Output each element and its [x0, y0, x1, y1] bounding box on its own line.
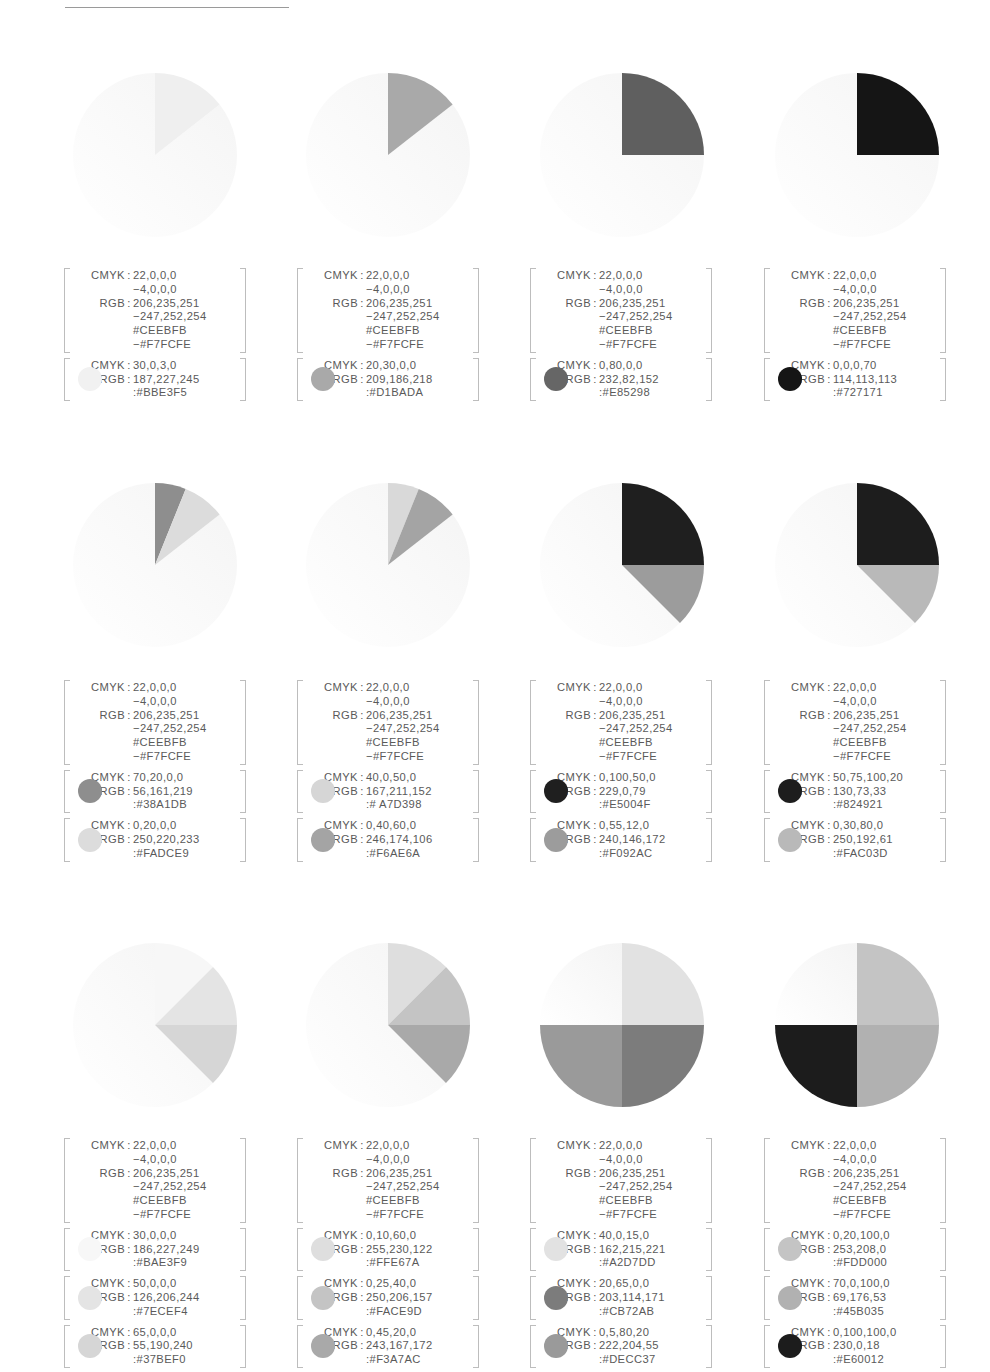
- separator: [125, 736, 133, 750]
- swatch-hex-value: :#E5004F: [599, 798, 651, 812]
- swatch-hex-value: :#FDD000: [833, 1256, 887, 1270]
- swatch-spec: CMYK:0,30,80,0RGB:250,192,61:#FAC03D: [764, 818, 946, 861]
- hex-end-label: [298, 338, 358, 352]
- rgb-end-value: −247,252,254: [133, 310, 207, 324]
- rgb-row: RGB:206,235,251: [298, 709, 478, 723]
- separator: [591, 310, 599, 324]
- separator: :: [358, 681, 366, 695]
- swatch-spec: CMYK:0,20,0,0RGB:250,220,233:#FADCE9: [64, 818, 246, 861]
- top-rule: [65, 7, 289, 8]
- separator: [125, 1353, 133, 1367]
- base-gradient-spec: CMYK:22,0,0,0−4,0,0,0RGB:206,235,251−247…: [297, 1138, 479, 1223]
- hex-end-label: [765, 1208, 825, 1222]
- hex-end-label: [765, 338, 825, 352]
- separator: [358, 750, 366, 764]
- rgb-value: 206,235,251: [833, 297, 900, 311]
- separator: :: [358, 373, 366, 387]
- separator: [125, 1305, 133, 1319]
- pie-chart: [286, 463, 490, 667]
- hex-end-label: [298, 1208, 358, 1222]
- swatch-rgb-value: 232,82,152: [599, 373, 659, 387]
- cmyk-value: 22,0,0,0: [599, 1139, 643, 1153]
- cmyk-end-label: [765, 695, 825, 709]
- separator: :: [125, 771, 133, 785]
- separator: :: [358, 1229, 366, 1243]
- swatch-cmyk-value: 0,100,50,0: [599, 771, 656, 785]
- swatch-rgb-value: 56,161,219: [133, 785, 193, 799]
- swatch-spec: CMYK:30,0,3,0RGB:187,227,245:#BBE3F5: [64, 358, 246, 401]
- hex-label: [531, 736, 591, 750]
- base-gradient-spec: CMYK:22,0,0,0−4,0,0,0RGB:206,235,251−247…: [530, 1138, 712, 1223]
- hex-end-row: −#F7FCFE: [65, 1208, 245, 1222]
- separator: [825, 1305, 833, 1319]
- swatch-rgb-value: 209,186,218: [366, 373, 433, 387]
- separator: [591, 283, 599, 297]
- swatch-spec: CMYK:65,0,0,0RGB:55,190,240:#37BEF0: [64, 1325, 246, 1368]
- rgb-row: RGB:206,235,251: [531, 297, 711, 311]
- rgb-row: RGB:206,235,251: [765, 297, 945, 311]
- hex-end-value: −#F7FCFE: [133, 338, 191, 352]
- separator: [825, 1180, 833, 1194]
- rgb-end-label: [65, 1180, 125, 1194]
- hex-end-value: −#F7FCFE: [599, 750, 657, 764]
- separator: [358, 1353, 366, 1367]
- rgb-label: RGB: [765, 297, 825, 311]
- pie-chart: [286, 53, 490, 257]
- separator: :: [591, 681, 599, 695]
- rgb-value: 206,235,251: [599, 297, 666, 311]
- cmyk-end-value: −4,0,0,0: [833, 1153, 877, 1167]
- hex-value: #CEEBFB: [366, 1194, 420, 1208]
- cmyk-label: CMYK: [65, 681, 125, 695]
- separator: :: [591, 771, 599, 785]
- rgb-end-label: [765, 310, 825, 324]
- cmyk-end-value: −4,0,0,0: [599, 283, 643, 297]
- swatch-cmyk-value: 40,0,15,0: [599, 1229, 649, 1243]
- separator: :: [825, 1326, 833, 1340]
- cmyk-label: CMYK: [531, 1139, 591, 1153]
- swatch-cmyk-value: 20,30,0,0: [366, 359, 416, 373]
- cmyk-label: CMYK: [298, 681, 358, 695]
- swatch-hex-value: :#F6AE6A: [366, 847, 420, 861]
- separator: [591, 847, 599, 861]
- swatch-spec: CMYK:0,40,60,0RGB:246,174,106:#F6AE6A: [297, 818, 479, 861]
- base-gradient-spec: CMYK:22,0,0,0−4,0,0,0RGB:206,235,251−247…: [64, 1138, 246, 1223]
- hex-end-value: −#F7FCFE: [133, 1208, 191, 1222]
- swatch-cmyk-value: 0,0,0,70: [833, 359, 877, 373]
- swatch-rgb-value: 240,146,172: [599, 833, 666, 847]
- cmyk-label: CMYK: [765, 681, 825, 695]
- cmyk-row: CMYK:22,0,0,0: [65, 269, 245, 283]
- rgb-label: RGB: [531, 709, 591, 723]
- separator: :: [591, 1167, 599, 1181]
- swatch-cmyk-value: 0,20,100,0: [833, 1229, 890, 1243]
- separator: :: [591, 833, 599, 847]
- cmyk-end-value: −4,0,0,0: [833, 695, 877, 709]
- pie-slice: [857, 483, 939, 565]
- separator: :: [125, 785, 133, 799]
- separator: :: [358, 1339, 366, 1353]
- swatch-hex-value: :#E60012: [833, 1353, 884, 1367]
- color-swatch: [311, 828, 335, 852]
- rgb-value: 206,235,251: [133, 1167, 200, 1181]
- separator: [825, 736, 833, 750]
- swatch-cmyk-value: 65,0,0,0: [133, 1326, 177, 1340]
- hex-end-label: [65, 750, 125, 764]
- cmyk-value: 22,0,0,0: [366, 1139, 410, 1153]
- separator: :: [358, 1277, 366, 1291]
- swatch-cmyk-value: 0,10,60,0: [366, 1229, 416, 1243]
- swatch-hex-value: :#7ECEF4: [133, 1305, 188, 1319]
- hex-end-label: [65, 338, 125, 352]
- cmyk-end-label: [298, 1153, 358, 1167]
- pie-chart: [53, 53, 257, 257]
- rgb-end-label: [765, 1180, 825, 1194]
- pie-remainder-gradient: [775, 943, 857, 1025]
- hex-value: #CEEBFB: [366, 324, 420, 338]
- color-spec-card: CMYK:22,0,0,0−4,0,0,0RGB:206,235,251−247…: [530, 1138, 712, 1372]
- separator: :: [825, 1139, 833, 1153]
- separator: :: [825, 1167, 833, 1181]
- separator: [125, 1256, 133, 1270]
- separator: :: [358, 269, 366, 283]
- color-spec-card: CMYK:22,0,0,0−4,0,0,0RGB:206,235,251−247…: [530, 268, 712, 406]
- hex-value: #CEEBFB: [833, 324, 887, 338]
- separator: [358, 722, 366, 736]
- rgb-row: RGB:206,235,251: [65, 297, 245, 311]
